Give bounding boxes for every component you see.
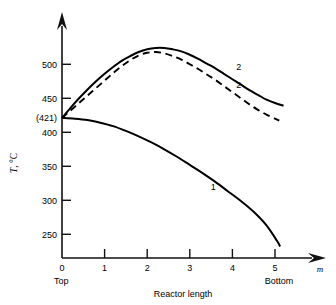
series-label-curve-1: 1	[211, 182, 216, 192]
data-series-group	[62, 48, 284, 247]
y-tick-label-300: 300	[42, 196, 57, 206]
x-tick-label-0: 0	[59, 263, 64, 273]
x-axis-unit-label: m	[317, 264, 324, 274]
chart-figure: 500450(421)400350300250 012345 221 T, °C…	[0, 0, 336, 305]
y-tick-label-500: 500	[42, 60, 57, 70]
curve-1	[62, 118, 280, 247]
x-tick-label-4: 4	[230, 263, 235, 273]
y-tick-label-350: 350	[42, 162, 57, 172]
x-tick-label-3: 3	[187, 263, 192, 273]
top-annotation: Top	[54, 276, 69, 286]
series-label-curve-2-solid: 2	[236, 62, 241, 72]
curve-2-solid	[62, 48, 284, 118]
series-label-curve-2-dashed: 2	[236, 80, 241, 90]
y-tick-label-421: (421)	[36, 113, 57, 123]
x-axis-ticks: 012345	[59, 249, 277, 273]
series-label-group: 221	[211, 62, 242, 192]
y-tick-label-400: 400	[42, 128, 57, 138]
y-axis-title: T, °C	[9, 153, 19, 173]
curve-2-dashed	[62, 52, 279, 121]
x-tick-label-5: 5	[272, 263, 277, 273]
y-tick-label-250: 250	[42, 230, 57, 240]
axes-group	[57, 12, 326, 263]
bottom-annotation: Bottom	[265, 276, 294, 286]
x-tick-label-2: 2	[145, 263, 150, 273]
y-tick-label-450: 450	[42, 94, 57, 104]
temperature-profile-chart: 500450(421)400350300250 012345 221 T, °C…	[0, 0, 336, 305]
x-axis-title: Reactor length	[154, 289, 213, 299]
x-tick-label-1: 1	[102, 263, 107, 273]
y-axis-ticks: 500450(421)400350300250	[36, 60, 71, 240]
